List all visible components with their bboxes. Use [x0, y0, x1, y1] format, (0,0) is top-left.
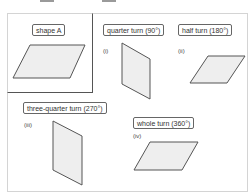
- three-quarter-turn-parallelogram: [53, 121, 82, 185]
- shape-a-parallelogram: [13, 45, 85, 78]
- three-quarter-turn-label: three-quarter turn (270°): [23, 102, 107, 114]
- shape-a-label: shape A: [32, 24, 65, 36]
- numeral-ii: (ii): [178, 48, 185, 54]
- quarter-turn-label: quarter turn (90°): [103, 24, 164, 36]
- half-turn-label: half turn (180°): [178, 24, 232, 36]
- half-turn-parallelogram: [190, 56, 245, 83]
- numeral-i: (i): [103, 48, 108, 54]
- whole-turn-parallelogram: [134, 142, 198, 170]
- numeral-iv: (iv): [133, 133, 141, 139]
- whole-turn-label: whole turn (360°): [133, 117, 194, 129]
- quarter-turn-parallelogram: [122, 43, 150, 99]
- numeral-iii: (iii): [24, 122, 32, 128]
